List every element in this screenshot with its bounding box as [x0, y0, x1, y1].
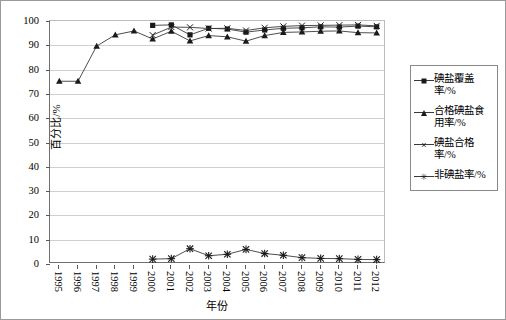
x-tick-mark — [133, 265, 134, 269]
legend-item: 碘盐覆盖率/% — [414, 73, 493, 96]
data-point-marker — [112, 31, 119, 37]
data-point-marker — [336, 28, 343, 34]
data-point-marker — [149, 255, 157, 263]
x-tick-mark — [152, 265, 153, 269]
gridline — [50, 45, 384, 46]
data-point-marker — [224, 25, 230, 31]
legend-star-icon: ✳ — [414, 170, 434, 183]
series-triangle — [56, 28, 380, 84]
gridline — [50, 240, 384, 241]
data-point-marker — [355, 29, 362, 35]
data-point-marker — [205, 252, 213, 260]
gridline — [50, 143, 384, 144]
series-cross — [150, 22, 380, 38]
series-square — [150, 22, 379, 37]
gridline — [50, 94, 384, 95]
y-tick-mark — [46, 191, 50, 192]
x-tick-mark — [114, 265, 115, 269]
series-line — [59, 31, 376, 81]
series-line — [153, 25, 377, 35]
plot-area — [49, 20, 385, 263]
y-tick-mark — [46, 215, 50, 216]
data-point-marker — [374, 23, 380, 29]
y-tick-label: 70 — [29, 87, 40, 98]
gridline — [50, 191, 384, 192]
x-tick-label: 2007 — [277, 271, 288, 292]
x-tick-label: 1999 — [128, 271, 139, 292]
data-point-marker — [186, 245, 194, 253]
data-point-marker — [243, 30, 248, 35]
data-point-marker — [187, 32, 192, 37]
data-point-marker — [168, 28, 175, 34]
series-line — [153, 249, 377, 260]
data-point-marker — [243, 27, 249, 33]
x-tick-mark — [338, 265, 339, 269]
x-tick-label: 2011 — [352, 271, 363, 292]
data-point-marker — [262, 27, 267, 32]
y-tick-label: 90 — [29, 39, 40, 50]
data-point-marker — [206, 26, 211, 31]
series-line — [153, 25, 377, 35]
y-tick-mark — [46, 21, 50, 22]
data-point-marker — [224, 250, 232, 258]
data-point-marker — [169, 22, 174, 27]
data-point-marker — [150, 23, 155, 28]
x-tick-label: 2005 — [240, 271, 251, 292]
x-tick-label: 2004 — [221, 271, 232, 292]
data-point-marker — [150, 32, 156, 38]
gridline — [50, 215, 384, 216]
x-tick-mark — [226, 265, 227, 269]
data-point-marker — [187, 38, 194, 44]
y-tick-label: 30 — [29, 185, 40, 196]
legend-triangle-icon — [414, 106, 434, 119]
x-tick-label: 1995 — [53, 271, 64, 292]
x-tick-mark — [77, 265, 78, 269]
legend-item-label: 碘盐覆盖率/% — [434, 73, 493, 96]
data-point-marker — [373, 30, 380, 36]
data-point-marker — [205, 32, 212, 38]
legend-item: ×碘盐合格率/% — [414, 137, 493, 160]
x-tick-label: 2012 — [370, 271, 381, 292]
data-point-marker — [168, 24, 174, 30]
y-axis-labels: 0102030405060708090100 — [1, 1, 45, 320]
data-point-marker — [299, 25, 304, 30]
x-tick-mark — [282, 265, 283, 269]
chart-legend: 碘盐覆盖率/%合格碘盐食用率/%×碘盐合格率/%✳非碘盐率/% — [410, 65, 498, 191]
chart-figure: 0102030405060708090100 百分比/% 19951996199… — [0, 0, 506, 320]
y-tick-label: 100 — [23, 15, 39, 26]
x-tick-mark — [96, 265, 97, 269]
x-tick-label: 2003 — [202, 271, 213, 292]
data-point-marker — [355, 22, 361, 28]
data-point-marker — [318, 24, 323, 29]
x-tick-label: 2009 — [314, 271, 325, 292]
x-tick-mark — [376, 265, 377, 269]
data-point-marker — [354, 256, 362, 264]
x-tick-label: 2000 — [146, 271, 157, 292]
y-tick-mark — [46, 45, 50, 46]
data-point-marker — [373, 256, 381, 264]
data-point-marker — [299, 23, 305, 29]
x-tick-label: 1997 — [90, 271, 101, 292]
data-point-marker — [262, 25, 268, 31]
gridline — [50, 118, 384, 119]
x-tick-label: 2008 — [296, 271, 307, 292]
x-tick-label: 2010 — [333, 271, 344, 292]
data-point-marker — [318, 22, 324, 28]
legend-cross-icon: × — [414, 138, 434, 151]
data-point-marker — [336, 255, 344, 263]
y-tick-label: 0 — [34, 258, 39, 269]
data-point-marker — [131, 28, 138, 34]
x-tick-mark — [58, 265, 59, 269]
data-point-marker — [298, 254, 306, 262]
legend-item: 合格碘盐食用率/% — [414, 105, 493, 128]
data-point-marker — [337, 24, 342, 29]
gridline — [50, 70, 384, 71]
data-point-marker — [317, 28, 324, 34]
data-point-marker — [75, 78, 82, 84]
data-point-marker — [149, 36, 156, 42]
x-tick-mark — [189, 265, 190, 269]
legend-item-label: 非碘盐率/% — [434, 169, 486, 181]
y-tick-label: 20 — [29, 209, 40, 220]
data-point-marker — [374, 24, 379, 29]
y-axis-title: 百分比/% — [47, 67, 63, 187]
